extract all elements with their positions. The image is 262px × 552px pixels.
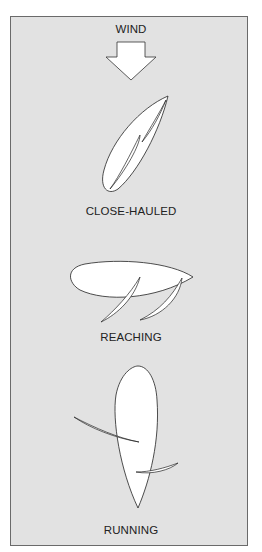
reaching-label: REACHING [0,331,262,343]
running-boat [74,366,178,508]
hull [115,366,158,508]
running-label: RUNNING [0,524,262,536]
close-hauled-label: CLOSE-HAULED [0,205,262,217]
reaching-boat [70,261,193,322]
wind-label: WIND [0,23,262,35]
wind-arrow-icon [106,42,156,80]
sailing-diagram [0,0,262,552]
close-hauled-boat [103,96,168,192]
